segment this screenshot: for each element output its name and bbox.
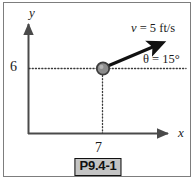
velocity-value: = 5 ft/s [137, 21, 176, 35]
figure-container: y x 6 7 v = 5 ft/s θ = 15° P9.4-1 [0, 0, 196, 182]
x-axis-label: x [178, 126, 184, 139]
y-tick-label-6: 6 [10, 60, 17, 74]
figure-caption: P9.4-1 [74, 158, 121, 176]
velocity-label: v = 5 ft/s [131, 22, 175, 35]
angle-label: θ = 15° [143, 53, 180, 66]
x-tick-label-7: 7 [95, 141, 102, 155]
y-axis-label: y [29, 6, 35, 19]
particle-marker [97, 62, 109, 74]
